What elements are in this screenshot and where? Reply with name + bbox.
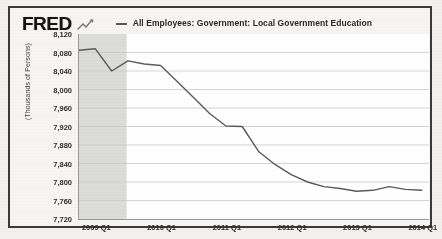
plot-wrapper: (Thousands of Persons) 8,1208,0808,0408,…	[10, 8, 434, 230]
data-series-line	[79, 49, 422, 191]
x-axis-tick-label: 2011 Q1	[213, 223, 241, 232]
y-axis-tick-label: 7,720	[20, 215, 72, 224]
x-axis-tick-label: 2014 Q1	[408, 223, 437, 232]
y-axis-title: (Thousands of Persons)	[24, 27, 31, 137]
y-axis-tick-label: 8,040	[20, 67, 72, 76]
screenshot-page: FRED All Employees: Government: Local Go…	[0, 0, 442, 239]
y-axis-tick-label: 8,080	[20, 48, 72, 57]
y-axis-tick-label: 7,800	[20, 178, 72, 187]
y-axis-tick-label: 7,960	[20, 104, 72, 113]
x-axis-tick-label: 2012 Q1	[278, 223, 307, 232]
y-axis-tick-label: 7,880	[20, 141, 72, 150]
x-axis-tick-label: 2010 Q1	[147, 223, 176, 232]
y-axis-tick-label: 8,000	[20, 85, 72, 94]
x-axis-tick-label: 2009 Q1	[82, 223, 111, 232]
y-axis-tick-label: 7,840	[20, 159, 72, 168]
chart-line-svg	[79, 34, 429, 219]
y-axis-tick-label: 7,760	[20, 196, 72, 205]
y-axis-tick-label: 8,120	[20, 30, 72, 39]
chart-frame: FRED All Employees: Government: Local Go…	[8, 6, 432, 228]
plot-area	[78, 34, 429, 220]
x-axis-tick-label: 2013 Q1	[343, 223, 372, 232]
y-axis-tick-label: 7,920	[20, 122, 72, 131]
